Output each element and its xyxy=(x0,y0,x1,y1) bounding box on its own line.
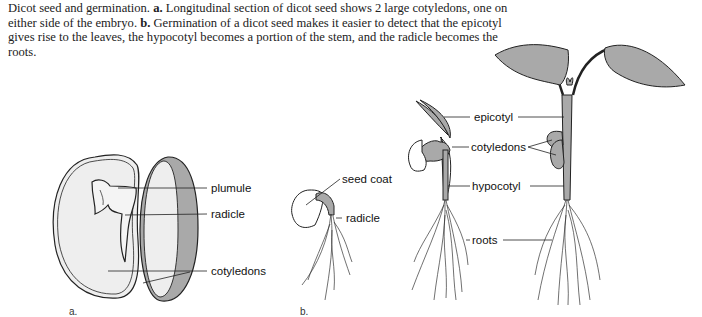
panel-b-marker: b. xyxy=(300,306,308,317)
label-seed-coat: seed coat xyxy=(342,173,393,185)
tall-seedling-illustration xyxy=(495,45,685,200)
label-roots: roots xyxy=(472,234,498,246)
label-radicle-a: radicle xyxy=(211,208,245,220)
label-radicle-b: radicle xyxy=(346,212,380,224)
label-epicotyl: epicotyl xyxy=(474,111,513,123)
early-seedling-illustration xyxy=(292,190,334,227)
middle-roots xyxy=(412,200,468,300)
seed-section-illustration xyxy=(53,155,198,301)
middle-seedling-illustration xyxy=(409,100,451,200)
label-cotyledons-a: cotyledons xyxy=(211,265,266,277)
tall-roots xyxy=(535,200,600,305)
right-leader-lines xyxy=(444,117,564,240)
label-plumule: plumule xyxy=(211,182,251,194)
panel-a-marker: a. xyxy=(69,306,77,317)
diagram-canvas: plumule radicle cotyledons a. seed coat … xyxy=(0,0,702,317)
label-cotyledons-b: cotyledons xyxy=(471,141,526,153)
label-hypocotyl: hypocotyl xyxy=(472,180,521,192)
